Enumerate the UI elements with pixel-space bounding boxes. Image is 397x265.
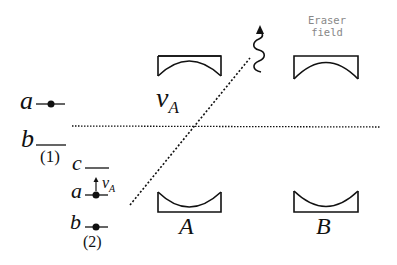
eraser-label-line1: Eraser xyxy=(292,14,362,26)
arrow-up-icon xyxy=(94,177,99,182)
beam-line xyxy=(72,126,380,127)
panel1-level-b-label: b xyxy=(21,126,34,152)
cavity-a-top-mirror-icon xyxy=(158,56,221,76)
panel1-label: (1) xyxy=(40,148,60,165)
cavity-b-bottom-mirror-icon xyxy=(294,191,358,212)
detector-a-label: A xyxy=(179,214,194,238)
panel2-atom-dot-b xyxy=(93,224,100,231)
velocity-label: vA xyxy=(156,84,179,116)
photon-wavy-arrow-icon xyxy=(254,25,265,72)
panel2-label: (2) xyxy=(83,234,102,250)
atom-cavity-diagram xyxy=(0,0,397,265)
eraser-field-label: Eraser field xyxy=(292,14,362,38)
cavity-a-bottom-mirror-icon xyxy=(158,192,221,212)
panel2-level-c-label: c xyxy=(72,152,82,174)
panel2-level-a-label: a xyxy=(71,180,82,202)
panel1-atom-dot xyxy=(48,101,55,108)
panel2-arrow-velocity-label: vA xyxy=(102,175,115,194)
panel2-level-b-label: b xyxy=(70,211,81,233)
cavity-b-top-mirror-icon xyxy=(294,56,358,79)
panel2-atom-dot-a xyxy=(93,192,100,199)
atom-trajectory xyxy=(130,58,250,205)
panel1-level-a-label: a xyxy=(20,88,33,114)
eraser-label-line2: field xyxy=(292,26,362,38)
detector-b-label: B xyxy=(316,214,331,238)
